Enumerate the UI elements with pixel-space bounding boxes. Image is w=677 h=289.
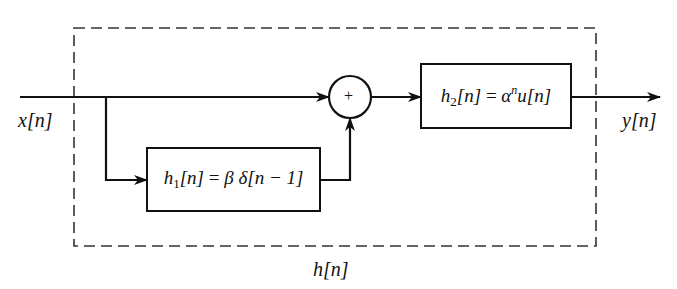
system-boundary-dashed xyxy=(74,28,596,246)
h2-equals: = xyxy=(486,85,497,106)
h2-u-arg: [n] xyxy=(527,85,551,106)
block-h1: h1[n] = β δ[n − 1] xyxy=(146,147,321,212)
branch-to-h1 xyxy=(106,97,147,180)
system-label: h[n] xyxy=(313,259,349,279)
h2-name: h xyxy=(441,85,451,106)
h1-delta: δ xyxy=(238,167,247,188)
h1-name: h xyxy=(164,167,174,188)
output-label: y[n] xyxy=(622,110,656,130)
h2-arg: [n] xyxy=(457,85,481,106)
system-label-text: h[n] xyxy=(313,258,349,280)
block-h2-equation: h2[n] = αnu[n] xyxy=(441,83,551,110)
block-h2: h2[n] = αnu[n] xyxy=(420,63,572,129)
h1-equals: = xyxy=(209,167,220,188)
h1-to-sum-line xyxy=(320,118,350,180)
input-label: x[n] xyxy=(18,110,52,130)
input-label-text: x[n] xyxy=(18,109,52,131)
block-diagram-canvas xyxy=(0,0,677,289)
h1-delta-arg: [n − 1] xyxy=(247,167,303,188)
h2-u: u xyxy=(517,85,527,106)
h1-beta: β xyxy=(224,167,233,188)
h1-arg: [n] xyxy=(180,167,204,188)
output-label-text: y[n] xyxy=(622,109,656,131)
plus-symbol: + xyxy=(344,88,353,104)
block-h1-equation: h1[n] = β δ[n − 1] xyxy=(164,167,304,192)
h2-alpha: α xyxy=(501,85,511,106)
